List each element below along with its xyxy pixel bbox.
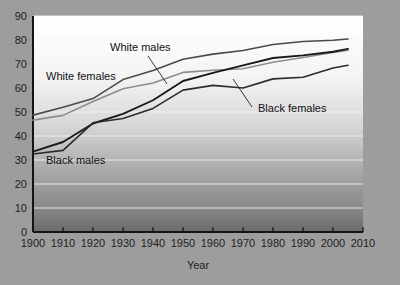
y-tick-label: 70 <box>15 58 27 70</box>
x-axis-title: Year <box>187 259 210 271</box>
y-tick-label: 20 <box>15 178 27 190</box>
x-tick-label: 1920 <box>81 237 105 249</box>
x-tick-label: 1910 <box>51 237 75 249</box>
x-tick-label: 1960 <box>201 237 225 249</box>
x-tick-label: 1940 <box>141 237 165 249</box>
series-label-black-males: Black males <box>46 154 106 166</box>
x-tick-label: 1950 <box>171 237 195 249</box>
y-tick-label: 30 <box>15 154 27 166</box>
life-expectancy-line-chart: 0102030405060708090 19001910192019301940… <box>0 0 400 285</box>
series-label-white-females: White females <box>46 70 116 82</box>
chart-canvas: 0102030405060708090 19001910192019301940… <box>0 0 400 285</box>
y-tick-label: 80 <box>15 34 27 46</box>
y-tick-label: 50 <box>15 106 27 118</box>
series-label-white-males: White males <box>110 41 171 53</box>
y-tick-label: 60 <box>15 82 27 94</box>
y-tick-label: 40 <box>15 130 27 142</box>
x-tick-label: 1900 <box>21 237 45 249</box>
x-tick-label: 2010 <box>351 237 375 249</box>
y-tick-label: 10 <box>15 202 27 214</box>
x-tick-label: 2000 <box>321 237 345 249</box>
plot-area-background <box>33 16 363 232</box>
y-tick-label: 90 <box>15 10 27 22</box>
x-tick-label: 1970 <box>231 237 255 249</box>
x-tick-label: 1930 <box>111 237 135 249</box>
series-label-black-females: Black females <box>258 102 327 114</box>
x-tick-label: 1980 <box>261 237 285 249</box>
x-tick-label: 1990 <box>291 237 315 249</box>
